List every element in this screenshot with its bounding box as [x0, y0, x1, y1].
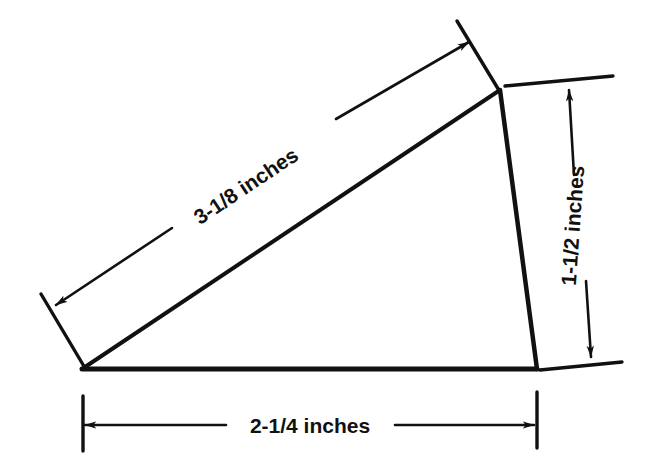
- dimension-line-hyp-left-segment: [56, 228, 172, 305]
- dimension-line-vert-lower-segment: [586, 281, 591, 357]
- extension-line-vert-bottom: [540, 362, 622, 370]
- diagram-canvas: 3-1/8 inches 1-1/2 inches 2-1/4 inches: [0, 0, 653, 468]
- extension-line-vert-top: [505, 76, 613, 86]
- extension-line-hyp-right: [457, 21, 500, 92]
- triangle-outline: [82, 90, 537, 369]
- extension-line-hyp-left: [41, 294, 85, 368]
- dimension-line-hyp-right-segment: [336, 42, 469, 119]
- dimension-label-base: 2-1/4 inches: [250, 414, 370, 437]
- triangle-dimension-figure: 3-1/8 inches 1-1/2 inches 2-1/4 inches: [0, 0, 653, 468]
- dimension-label-hypotenuse: 3-1/8 inches: [189, 143, 302, 229]
- triangle-edge-right: [500, 90, 537, 369]
- dimension-line-vert-upper-segment: [569, 90, 574, 175]
- triangle-edge-hypotenuse: [82, 90, 500, 369]
- dimension-hypotenuse: [41, 21, 500, 368]
- dimension-label-vertical: 1-1/2 inches: [557, 165, 588, 287]
